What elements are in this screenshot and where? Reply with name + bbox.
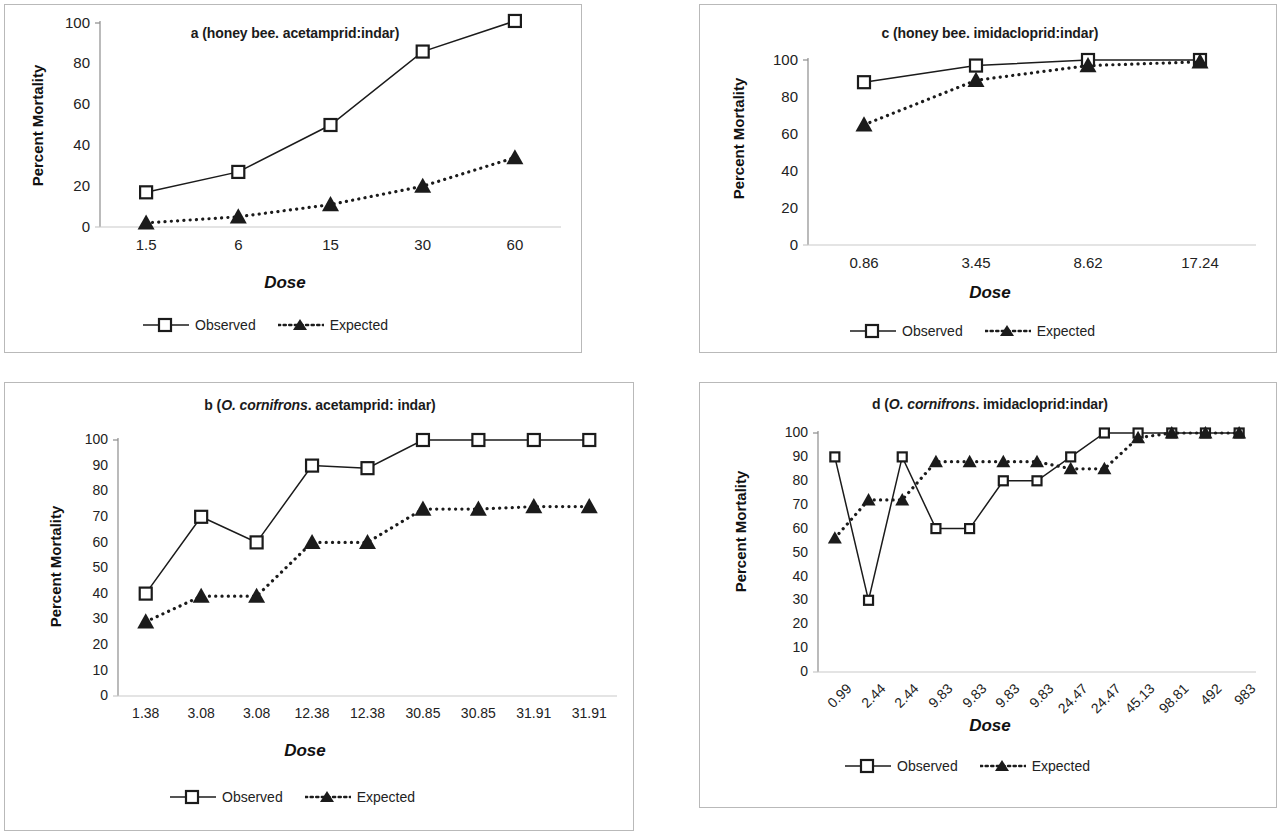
- series-line-expected: [146, 158, 515, 223]
- data-point-observed: [140, 186, 152, 198]
- data-point-observed: [472, 434, 484, 446]
- y-tick-label: 30: [56, 611, 108, 625]
- y-tick-label: 20: [746, 200, 798, 215]
- y-tick-label: 0: [756, 664, 808, 678]
- data-point-observed: [417, 46, 429, 58]
- observed-series-icon: [850, 323, 896, 339]
- y-tick-label: 60: [746, 126, 798, 141]
- x-tick-label: 31.91: [549, 706, 629, 720]
- y-tick-label: 100: [38, 15, 90, 30]
- data-point-observed: [898, 452, 907, 461]
- legend-item-observed: Observed: [850, 323, 963, 339]
- data-point-observed: [325, 119, 337, 131]
- data-point-observed: [232, 166, 244, 178]
- data-point-observed: [931, 524, 940, 533]
- data-point-observed: [195, 511, 207, 523]
- y-tick-label: 60: [56, 535, 108, 549]
- legend-item-expected: Expected: [278, 317, 388, 333]
- data-point-observed: [528, 434, 540, 446]
- legend-item-expected: Expected: [305, 789, 415, 805]
- data-point-expected: [304, 534, 321, 549]
- data-point-observed: [830, 452, 839, 461]
- data-point-observed: [1033, 476, 1042, 485]
- legend-label-expected: Expected: [1037, 324, 1095, 338]
- data-point-observed: [1100, 429, 1109, 438]
- expected-series-icon: [980, 758, 1026, 774]
- observed-series-icon: [845, 758, 891, 774]
- x-tick-label: 8.62: [1048, 255, 1128, 270]
- data-point-observed: [362, 462, 374, 474]
- data-point-expected: [414, 178, 431, 193]
- x-tick-label: 30: [383, 237, 463, 252]
- legend-item-observed: Observed: [845, 758, 958, 774]
- y-tick-label: 70: [56, 509, 108, 523]
- plot-area-b: [5, 383, 635, 831]
- data-point-expected: [137, 613, 154, 628]
- y-tick-label: 90: [756, 449, 808, 463]
- y-tick-label: 100: [756, 425, 808, 439]
- expected-series-icon: [305, 789, 351, 805]
- y-tick-label: 100: [56, 432, 108, 446]
- panel-c-legend: Observed Expected: [850, 323, 1095, 339]
- x-tick-label: 0.86: [824, 255, 904, 270]
- panel-a-chart: a (honey bee. acetamprid:indar) Percent …: [4, 4, 582, 353]
- legend-label-observed: Observed: [222, 790, 283, 804]
- y-tick-label: 50: [756, 545, 808, 559]
- data-point-observed: [999, 476, 1008, 485]
- y-tick-label: 0: [38, 219, 90, 234]
- data-point-expected: [581, 498, 598, 513]
- y-tick-label: 40: [56, 586, 108, 600]
- legend-item-expected: Expected: [980, 758, 1090, 774]
- data-point-observed: [583, 434, 595, 446]
- series-line-observed: [146, 21, 515, 192]
- data-point-observed: [509, 15, 521, 27]
- data-point-expected: [414, 501, 431, 516]
- legend-item-observed: Observed: [143, 317, 256, 333]
- y-tick-label: 20: [56, 637, 108, 651]
- y-tick-label: 80: [56, 483, 108, 497]
- y-tick-label: 50: [56, 560, 108, 574]
- legend-label-observed: Observed: [897, 759, 958, 773]
- data-point-expected: [1097, 462, 1111, 474]
- x-tick-label: 6: [198, 237, 278, 252]
- data-point-observed: [864, 596, 873, 605]
- data-point-observed: [965, 524, 974, 533]
- x-tick-label: 3.45: [936, 255, 1016, 270]
- y-tick-label: 0: [746, 237, 798, 252]
- legend-label-observed: Observed: [902, 324, 963, 338]
- legend-item-expected: Expected: [985, 323, 1095, 339]
- legend-label-observed: Observed: [195, 318, 256, 332]
- y-tick-label: 10: [56, 663, 108, 677]
- x-tick-label: 17.24: [1160, 255, 1240, 270]
- legend-label-expected: Expected: [357, 790, 415, 804]
- observed-series-icon: [170, 789, 216, 805]
- y-tick-label: 100: [746, 52, 798, 67]
- y-tick-label: 20: [38, 178, 90, 193]
- data-point-expected: [193, 588, 210, 603]
- data-point-expected: [525, 498, 542, 513]
- data-point-expected: [359, 534, 376, 549]
- plot-area-a: [5, 5, 583, 354]
- data-point-expected: [322, 196, 339, 211]
- legend-label-expected: Expected: [1032, 759, 1090, 773]
- observed-series-icon: [143, 317, 189, 333]
- x-tick-label: 1.5: [106, 237, 186, 252]
- y-tick-label: 80: [746, 89, 798, 104]
- data-point-observed: [417, 434, 429, 446]
- data-point-observed: [251, 536, 263, 548]
- data-point-expected: [929, 455, 943, 467]
- panel-b-legend: Observed Expected: [170, 789, 415, 805]
- y-tick-label: 40: [756, 569, 808, 583]
- data-point-expected: [230, 208, 247, 223]
- data-point-observed: [140, 588, 152, 600]
- x-tick-label: 15: [291, 237, 371, 252]
- series-line-expected: [864, 62, 1200, 125]
- series-line-expected: [146, 507, 590, 622]
- y-tick-label: 60: [756, 521, 808, 535]
- data-point-expected: [470, 501, 487, 516]
- expected-series-icon: [278, 317, 324, 333]
- panel-d-chart: d (O. cornifrons. imidacloprid:indar) Pe…: [699, 382, 1277, 808]
- expected-series-icon: [985, 323, 1031, 339]
- data-point-expected: [506, 149, 523, 164]
- y-tick-label: 40: [746, 163, 798, 178]
